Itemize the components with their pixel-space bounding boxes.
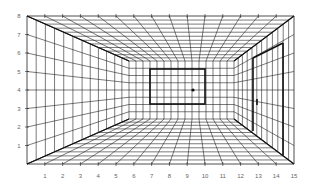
right-wall-radial-line	[234, 97, 294, 108]
y-axis-label: 3	[17, 106, 20, 112]
floor-radial-line	[227, 119, 276, 164]
corner-edge-top-right	[234, 16, 294, 61]
floor-radial-line	[213, 119, 241, 164]
x-axis-label: 7	[150, 173, 153, 179]
ceiling-radial-line	[227, 16, 276, 61]
x-axis-label: 3	[79, 173, 82, 179]
x-axis-label: 5	[114, 173, 117, 179]
floor-radial-line	[152, 119, 178, 164]
x-axis-label: 6	[132, 173, 135, 179]
ceiling-radial-line	[98, 16, 157, 61]
x-axis-label: 10	[202, 173, 209, 179]
left-wall-radial-line	[27, 72, 129, 83]
y-axis-label: 4	[17, 87, 20, 93]
perspective-grid	[0, 0, 311, 187]
floor-radial-line	[169, 119, 185, 164]
left-wall-radial-line	[27, 97, 129, 108]
x-axis-label: 8	[168, 173, 171, 179]
y-axis-label: 6	[17, 50, 20, 56]
floor-radial-line	[187, 119, 192, 164]
x-axis-label: 4	[97, 173, 100, 179]
y-axis-label: 7	[17, 32, 20, 38]
ceiling-radial-line	[213, 16, 241, 61]
y-axis-label: 1	[17, 143, 20, 149]
x-axis-label: 15	[291, 173, 298, 179]
left-wall-radial-line	[27, 105, 129, 128]
floor-radial-line	[206, 119, 223, 164]
x-axis-label: 14	[273, 173, 280, 179]
floor-radial-line	[98, 119, 157, 164]
x-axis-label: 12	[237, 173, 244, 179]
ceiling-radial-line	[206, 16, 223, 61]
x-axis-label: 13	[255, 173, 262, 179]
door-top-edge	[253, 43, 283, 58]
floor-radial-line	[199, 119, 205, 164]
ceiling-radial-line	[187, 16, 192, 61]
corner-edge-bottom-left	[27, 119, 129, 164]
x-axis-label: 11	[220, 173, 226, 179]
window-frame	[150, 69, 205, 104]
x-axis-label: 9	[186, 173, 189, 179]
corner-edge-bottom-right	[234, 119, 294, 164]
x-axis-label: 2	[61, 173, 64, 179]
right-wall-radial-line	[234, 53, 294, 76]
ceiling-radial-line	[220, 16, 258, 61]
corner-edge-top-left	[27, 16, 129, 61]
floor-radial-line	[63, 119, 143, 164]
ceiling-radial-line	[169, 16, 185, 61]
x-axis-label: 1	[43, 173, 46, 179]
ceiling-radial-line	[199, 16, 205, 61]
perspective-room-diagram: 12345678910111213141512345678	[0, 0, 311, 187]
ceiling-radial-line	[63, 16, 143, 61]
right-wall-radial-line	[234, 72, 294, 83]
left-wall-radial-line	[27, 53, 129, 76]
vanishing-point-dot	[191, 88, 194, 91]
y-axis-label: 2	[17, 124, 20, 130]
y-axis-label: 5	[17, 69, 20, 75]
y-axis-label: 8	[17, 13, 20, 19]
ceiling-radial-line	[152, 16, 178, 61]
right-wall-radial-line	[234, 105, 294, 128]
